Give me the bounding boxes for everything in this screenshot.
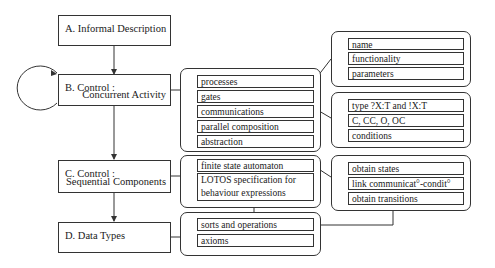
item-abstraction: abstraction bbox=[197, 135, 314, 148]
stage-a-informal-description: A. Informal Description bbox=[58, 15, 171, 46]
item-obtain-transitions: obtain transitions bbox=[348, 192, 464, 205]
stage-b-concurrent-activity: B. Control : Concurrent Activity bbox=[58, 74, 171, 106]
item-gates: gates bbox=[197, 90, 314, 103]
item-parameters: parameters bbox=[348, 67, 464, 80]
stage-c-sublabel: Sequential Components bbox=[66, 176, 166, 187]
item-lotos-specification: LOTOS specification for behaviour expres… bbox=[197, 173, 314, 201]
item-axioms: axioms bbox=[197, 234, 314, 247]
item-c-cc-o-oc: C, CC, O, OC bbox=[348, 114, 464, 127]
item-finite-state-automaton: finite state automaton bbox=[197, 159, 314, 172]
item-link-communication-conditions: link communicat°-condit° bbox=[348, 177, 464, 190]
stage-d-label: D. Data Types bbox=[65, 230, 125, 241]
stage-c-sequential-components: C. Control : Sequential Components bbox=[58, 160, 171, 193]
stage-d-data-types: D. Data Types bbox=[58, 222, 171, 253]
item-conditions: conditions bbox=[348, 129, 464, 142]
item-sorts-and-operations: sorts and operations bbox=[197, 218, 314, 231]
item-obtain-states: obtain states bbox=[348, 162, 464, 175]
item-communications: communications bbox=[197, 105, 314, 118]
item-type-xt: type ?X:T and !X:T bbox=[348, 99, 464, 112]
item-processes: processes bbox=[197, 75, 314, 88]
item-parallel-composition: parallel composition bbox=[197, 120, 314, 133]
stage-b-sublabel: Concurrent Activity bbox=[82, 89, 166, 100]
item-functionality: functionality bbox=[348, 52, 464, 65]
stage-a-label: A. Informal Description bbox=[65, 23, 166, 34]
item-name: name bbox=[348, 38, 464, 50]
